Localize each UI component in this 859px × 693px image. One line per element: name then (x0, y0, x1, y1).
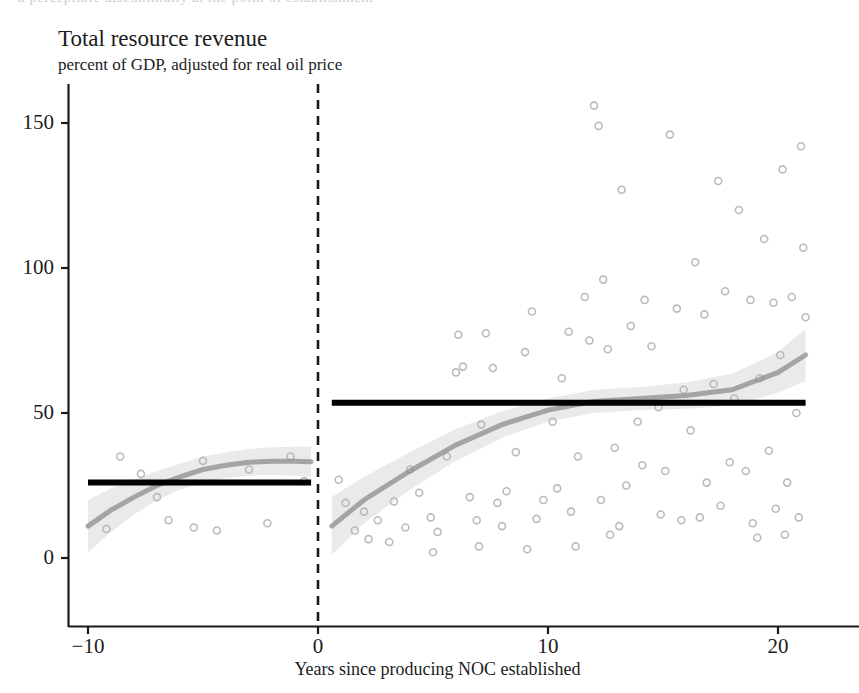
x-tick-label: 20 (748, 636, 808, 657)
scatter-point (611, 444, 618, 451)
scatter-point (558, 375, 565, 382)
scatter-point (627, 323, 634, 330)
scatter-point (137, 470, 144, 477)
x-axis-title-label: Years since producing NOC established (294, 659, 580, 679)
scatter-point (499, 523, 506, 530)
scatter-point (765, 447, 772, 454)
scatter-point (666, 131, 673, 138)
scatter-point (459, 363, 466, 370)
scatter-point (747, 296, 754, 303)
scatter-point (574, 453, 581, 460)
scatter-point (673, 305, 680, 312)
scatter-point (473, 517, 480, 524)
scatter-point (781, 531, 788, 538)
scatter-point (722, 288, 729, 295)
scatter-point (524, 546, 531, 553)
scatter-point (416, 489, 423, 496)
scatter-point (264, 520, 271, 527)
scatter-point (623, 482, 630, 489)
scatter-point (692, 259, 699, 266)
scatter-point (165, 517, 172, 524)
scatter-point (335, 476, 342, 483)
scatter-point (687, 427, 694, 434)
scatter-point (788, 294, 795, 301)
scatter-point (639, 462, 646, 469)
scatter-point (494, 499, 501, 506)
scatter-point (190, 524, 197, 531)
scatter-point (565, 328, 572, 335)
y-tick-label: 150 (0, 112, 54, 133)
scatter-point (386, 539, 393, 546)
scatter-point (453, 369, 460, 376)
clipped-header-text: a perceptible discontinuity at the point… (0, 0, 859, 10)
scatter-point (600, 276, 607, 283)
scatter-points-group (103, 102, 809, 556)
scatter-point (701, 311, 708, 318)
x-tick-label: −10 (58, 636, 118, 657)
scatter-point (735, 207, 742, 214)
scatter-point (795, 514, 802, 521)
scatter-point (455, 331, 462, 338)
scatter-point (466, 494, 473, 501)
x-tick-label: 10 (518, 636, 578, 657)
scatter-point (482, 330, 489, 337)
scatter-point (742, 468, 749, 475)
scatter-point (717, 502, 724, 509)
chart-figure: a perceptible discontinuity at the point… (0, 0, 859, 693)
chart-title: Total resource revenue (58, 26, 267, 52)
scatter-point (634, 418, 641, 425)
scatter-point (489, 365, 496, 372)
scatter-point (213, 527, 220, 534)
chart-subtitle: percent of GDP, adjusted for real oil pr… (58, 55, 342, 75)
scatter-point (662, 468, 669, 475)
scatter-point (533, 515, 540, 522)
scatter-point (648, 343, 655, 350)
scatter-point (703, 479, 710, 486)
scatter-point (678, 517, 685, 524)
scatter-point (618, 186, 625, 193)
scatter-point (641, 296, 648, 303)
scatter-point (779, 166, 786, 173)
scatter-point (434, 528, 441, 535)
scatter-point (554, 485, 561, 492)
scatter-point (800, 244, 807, 251)
y-tick-label: 0 (0, 547, 54, 568)
scatter-point (117, 453, 124, 460)
scatter-point (528, 308, 535, 315)
scatter-point (715, 178, 722, 185)
scatter-point (597, 497, 604, 504)
x-axis-title: Years since producing NOC established (0, 659, 859, 680)
scatter-point (754, 534, 761, 541)
scatter-point (726, 459, 733, 466)
scatter-point (427, 514, 434, 521)
scatter-point (604, 346, 611, 353)
scatter-point (586, 337, 593, 344)
scatter-point (657, 511, 664, 518)
scatter-point (581, 294, 588, 301)
y-tick-label: 50 (0, 402, 54, 423)
scatter-point (512, 449, 519, 456)
scatter-point (802, 314, 809, 321)
scatter-point (772, 505, 779, 512)
scatter-point (696, 514, 703, 521)
scatter-point (784, 479, 791, 486)
scatter-point (430, 549, 437, 556)
scatter-point (568, 508, 575, 515)
plot-canvas (0, 0, 859, 693)
scatter-point (798, 143, 805, 150)
scatter-point (591, 102, 598, 109)
scatter-point (374, 517, 381, 524)
x-tick-label: 0 (288, 636, 348, 657)
y-tick-label: 100 (0, 257, 54, 278)
scatter-point (595, 122, 602, 129)
scatter-point (607, 531, 614, 538)
scatter-point (770, 299, 777, 306)
scatter-point (365, 536, 372, 543)
scatter-point (540, 497, 547, 504)
scatter-point (476, 543, 483, 550)
scatter-point (749, 520, 756, 527)
confidence-band-right (332, 329, 806, 555)
axes-group (61, 84, 859, 634)
scatter-point (522, 349, 529, 356)
clipped-header-label: a perceptible discontinuity at the point… (18, 0, 374, 6)
